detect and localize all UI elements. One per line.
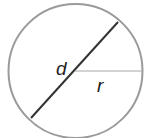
diameter-label: d (56, 58, 68, 79)
circle-diagram: d r (0, 0, 145, 138)
radius-label: r (97, 75, 104, 96)
diameter-line (31, 22, 118, 118)
